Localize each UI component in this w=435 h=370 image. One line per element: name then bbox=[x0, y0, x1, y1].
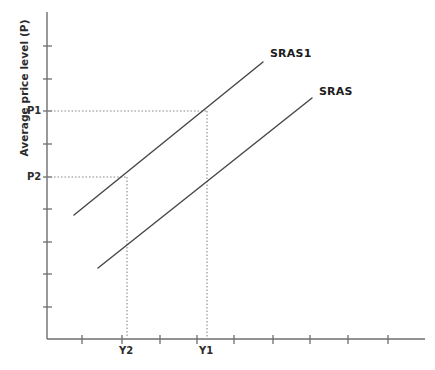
y-tick-label-p1: P1 bbox=[27, 105, 41, 116]
sras-curve-label: SRAS bbox=[319, 85, 353, 98]
y-axis-title: Average price level (P) bbox=[18, 13, 30, 163]
sras1-curve bbox=[74, 62, 263, 215]
x-tick-label-y2: Y2 bbox=[119, 345, 133, 356]
sras-curve bbox=[98, 98, 312, 268]
chart-canvas bbox=[0, 0, 435, 370]
y-tick-label-p2: P2 bbox=[27, 171, 41, 182]
sras1-curve-label: SRAS1 bbox=[270, 47, 311, 60]
sras-shift-diagram: Average price level (P) P1 P2 Y2 Y1 SRAS… bbox=[0, 0, 435, 370]
x-tick-label-y1: Y1 bbox=[199, 345, 213, 356]
